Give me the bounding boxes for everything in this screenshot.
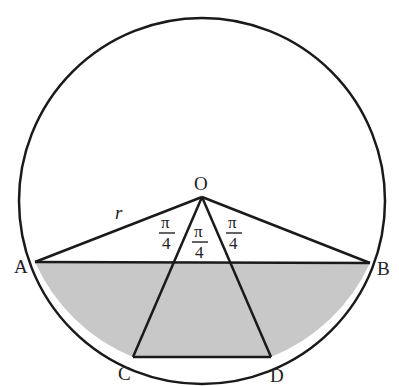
angle-left: π 4 — [159, 213, 175, 253]
label-d: D — [270, 365, 284, 386]
svg-text:4: 4 — [195, 243, 204, 262]
angle-middle: π 4 — [192, 222, 208, 262]
svg-text:π: π — [228, 213, 237, 232]
svg-text:π: π — [194, 222, 203, 241]
label-a: A — [14, 256, 28, 277]
label-b: B — [377, 258, 390, 279]
chord-ab — [35, 262, 370, 263]
svg-text:π: π — [161, 213, 170, 232]
svg-text:4: 4 — [162, 234, 171, 253]
circle-diagram: O A B C D r π 4 π 4 π 4 — [0, 0, 399, 386]
label-o: O — [194, 173, 208, 194]
label-c: C — [118, 363, 131, 384]
svg-text:4: 4 — [229, 234, 238, 253]
label-r: r — [115, 202, 123, 223]
angle-right: π 4 — [226, 213, 242, 253]
